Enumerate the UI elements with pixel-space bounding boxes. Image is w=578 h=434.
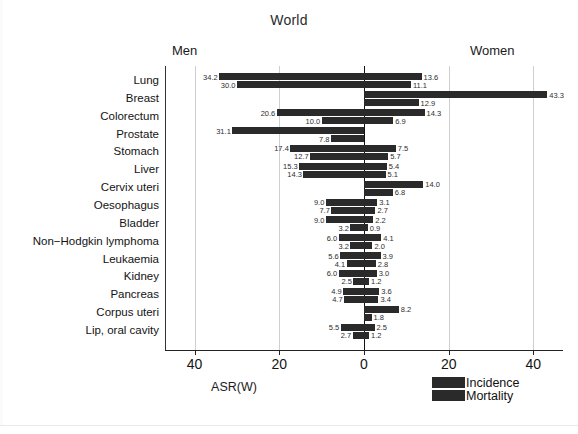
bar-value-label: 1.8	[374, 314, 384, 321]
legend: Incidence Mortality	[432, 376, 520, 402]
x-tick-20-left	[279, 350, 280, 355]
bar-value-label: 6.0	[327, 270, 337, 277]
bar-right-mortality	[364, 278, 369, 285]
bar-right-mortality	[364, 296, 378, 303]
x-tick-label-0-center: 0	[360, 356, 368, 372]
bar-value-label: 8.2	[401, 306, 411, 313]
bar-right-incidence	[364, 288, 379, 295]
bar-right-incidence	[364, 181, 423, 188]
bar-left-mortality	[344, 296, 364, 303]
category-label: Pancreas	[1, 288, 159, 300]
bar-right-incidence	[364, 252, 381, 259]
y-axis-line	[165, 66, 166, 350]
bar-value-label: 5.6	[328, 253, 338, 260]
bar-left-mortality	[322, 117, 364, 124]
category-label: Breast	[1, 92, 159, 104]
category-label: Corpus uteri	[1, 306, 159, 318]
bar-right-incidence	[364, 73, 422, 80]
bar-left-mortality	[353, 278, 364, 285]
bar-right-incidence	[364, 324, 375, 331]
legend-label-incidence: Incidence	[466, 377, 520, 389]
bar-value-label: 14.0	[425, 181, 440, 188]
bar-value-label: 17.4	[274, 145, 289, 152]
bar-value-label: 1.2	[371, 332, 381, 339]
x-tick-label-20-right: 20	[441, 356, 457, 372]
bar-left-mortality	[310, 153, 364, 160]
legend-item-mortality: Mortality	[432, 389, 520, 402]
bar-value-label: 2.7	[377, 207, 387, 214]
bar-value-label: 10.0	[306, 118, 321, 125]
gridline-40-right	[533, 66, 534, 350]
bar-value-label: 2.7	[341, 332, 351, 339]
bar-left-mortality	[350, 242, 364, 249]
bar-value-label: 43.3	[549, 92, 564, 99]
category-label: Prostate	[1, 128, 159, 140]
x-tick-40-left	[195, 350, 196, 355]
bar-value-label: 2.0	[374, 243, 384, 250]
bar-value-label: 6.9	[395, 118, 405, 125]
bar-right-mortality	[364, 242, 372, 249]
bar-left-incidence	[219, 73, 364, 80]
bar-left-incidence	[290, 145, 364, 152]
x-tick-20-right	[449, 350, 450, 355]
legend-swatch-incidence	[432, 377, 465, 388]
bar-value-label: 34.2	[203, 74, 218, 81]
men-side-header: Men	[172, 43, 197, 58]
bar-right-incidence	[364, 234, 381, 241]
chart-canvas: World Men Women 34.230.013.611.143.312.9…	[0, 0, 578, 434]
bar-left-mortality	[331, 135, 364, 142]
bar-value-label: 13.6	[424, 74, 439, 81]
legend-item-incidence: Incidence	[432, 376, 520, 389]
bar-value-label: 12.9	[421, 100, 436, 107]
bar-value-label: 14.3	[287, 171, 302, 178]
category-label: Stomach	[1, 145, 159, 157]
bar-value-label: 2.5	[341, 278, 351, 285]
bar-value-label: 20.6	[261, 110, 276, 117]
bar-value-label: 2.5	[377, 324, 387, 331]
bar-left-mortality	[237, 81, 364, 88]
bar-left-incidence	[277, 109, 364, 116]
bar-value-label: 9.0	[314, 217, 324, 224]
bar-right-mortality	[364, 99, 419, 106]
bar-value-label: 1.2	[371, 278, 381, 285]
bar-left-mortality	[331, 207, 364, 214]
bar-value-label: 3.0	[379, 270, 389, 277]
bar-value-label: 12.7	[294, 153, 309, 160]
bar-value-label: 9.0	[314, 199, 324, 206]
category-label: Leukaemia	[1, 253, 159, 265]
bar-value-label: 2.8	[378, 261, 388, 268]
bar-value-label: 6.0	[327, 235, 337, 242]
category-label: Non−Hodgkin lymphoma	[1, 235, 159, 247]
bar-left-incidence	[341, 324, 364, 331]
x-tick-label-40-left: 40	[187, 356, 203, 372]
bar-left-incidence	[326, 216, 364, 223]
bar-value-label: 3.2	[339, 243, 349, 250]
gridline-40-left	[195, 66, 196, 350]
x-axis-title-text: ASR(W)	[211, 380, 257, 394]
bar-left-incidence	[299, 163, 364, 170]
category-label: Liver	[1, 163, 159, 175]
bar-value-label: 3.9	[383, 253, 393, 260]
bar-right-incidence	[364, 91, 547, 98]
bar-left-incidence	[326, 199, 364, 206]
bar-right-mortality	[364, 153, 388, 160]
bar-value-label: 4.7	[332, 296, 342, 303]
bar-left-mortality	[347, 260, 364, 267]
x-tick-40-right	[533, 350, 534, 355]
bar-value-label: 3.1	[379, 199, 389, 206]
x-tick-label-40-right: 40	[526, 356, 542, 372]
page-bottom-edge	[0, 425, 578, 434]
bar-right-mortality	[364, 332, 369, 339]
gridline-20-right	[449, 66, 450, 350]
bar-right-incidence	[364, 270, 377, 277]
bar-value-label: 11.1	[413, 82, 427, 89]
bar-value-label: 7.7	[319, 207, 329, 214]
bar-value-label: 3.2	[339, 225, 349, 232]
bar-value-label: 4.9	[331, 288, 341, 295]
bar-value-label: 7.8	[319, 136, 329, 143]
bar-right-mortality	[364, 314, 372, 321]
bar-value-label: 6.8	[395, 189, 405, 196]
bar-value-label: 0.9	[370, 225, 380, 232]
bar-right-mortality	[364, 117, 393, 124]
bar-value-label: 3.6	[381, 288, 391, 295]
